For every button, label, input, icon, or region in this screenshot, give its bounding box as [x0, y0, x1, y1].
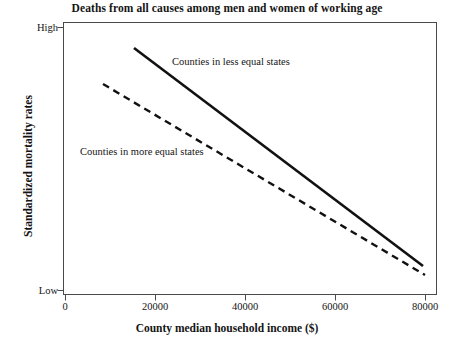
- plot-area: [0, 0, 454, 348]
- xtick-label-0: 0: [62, 301, 67, 312]
- chart-figure: Deaths from all causes among men and wom…: [0, 0, 454, 348]
- x-axis-label: County median household income ($): [0, 322, 454, 334]
- annotation-more-equal-states: Counties in more equal states: [80, 146, 204, 157]
- xtick-label-20000: 20000: [142, 301, 168, 312]
- xtick-label-60000: 60000: [322, 301, 348, 312]
- xtick-label-40000: 40000: [232, 301, 258, 312]
- ytick-label-high: High: [37, 22, 58, 33]
- series-line-more-equal: [103, 84, 425, 275]
- y-tick-marks: [58, 28, 64, 291]
- series-line-less-equal: [134, 48, 423, 266]
- y-axis-label: Standardized mortality rates: [22, 66, 34, 266]
- xtick-label-80000: 80000: [412, 301, 438, 312]
- x-tick-marks: [66, 295, 426, 301]
- ytick-label-low: Low: [39, 285, 58, 296]
- annotation-less-equal-states: Counties in less equal states: [172, 56, 290, 67]
